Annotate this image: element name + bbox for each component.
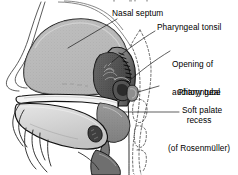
recess-fossa <box>127 85 138 101</box>
label-soft-palate: Soft palate <box>182 106 222 115</box>
anatomy-figure: Nasal septum Pharyngeal tonsil Opening o… <box>0 0 238 175</box>
label-pharyngeal-recess-line3: (of Rosenmüller) <box>161 144 237 153</box>
label-pharyngeal-recess: Pharyngeal recess (of Rosenmüller) <box>161 69 237 172</box>
pharyngeal-recess <box>127 85 138 101</box>
label-pharyngeal-recess-line1: Pharyngeal <box>161 88 237 97</box>
label-pharyngeal-recess-line2: recess <box>161 116 237 125</box>
palatine-tonsil <box>88 126 102 142</box>
label-nasal-septum: Nasal septum <box>112 9 163 18</box>
label-pharyngeal-tonsil: Pharyngeal tonsil <box>157 23 222 32</box>
label-opening-of-auditory-tube-line1: Opening of <box>172 60 221 69</box>
